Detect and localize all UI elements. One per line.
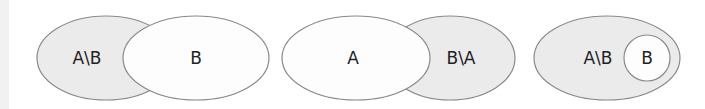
diagram-a-minus-b: A\B B	[37, 16, 269, 100]
venn-diagrams: A\B B A B\A A\B B	[0, 0, 705, 109]
label-a-minus-b: A\B	[72, 48, 101, 68]
label-a-minus-b: A\B	[583, 48, 612, 68]
label-b: B	[641, 48, 653, 68]
label-a: A	[347, 48, 359, 68]
diagram-b-subset-of-a: A\B B	[534, 16, 680, 100]
label-b: B	[190, 48, 202, 68]
label-b-minus-a: B\A	[446, 48, 475, 68]
diagram-b-minus-a: A B\A	[282, 16, 515, 100]
